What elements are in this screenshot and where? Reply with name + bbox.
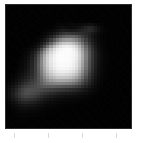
image-display-panel[interactable] (5, 4, 132, 129)
axis-tick-0 (14, 133, 15, 138)
axis-tick-3 (116, 133, 117, 138)
axis-tick-2 (82, 133, 83, 138)
heatmap-canvas[interactable] (5, 4, 132, 129)
figure-root (0, 0, 145, 143)
axis-tick-1 (48, 133, 49, 138)
